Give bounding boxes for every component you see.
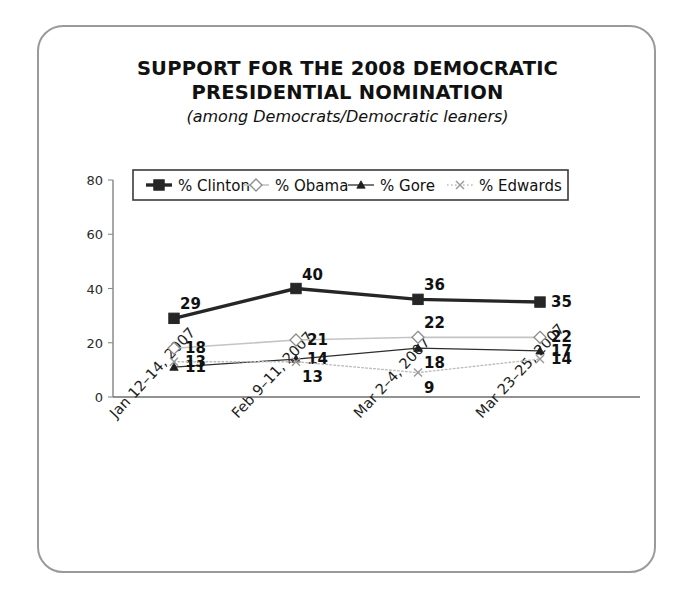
legend-label: % Clinton	[178, 177, 250, 195]
legend-label: % Gore	[380, 177, 435, 195]
data-point-label: 9	[424, 379, 434, 397]
data-point-label: 21	[307, 331, 328, 349]
data-point-label: 14	[551, 350, 572, 368]
data-point-marker	[169, 313, 179, 323]
data-point-label: 36	[424, 276, 445, 294]
data-point-marker	[154, 180, 164, 190]
data-point-label: 13	[302, 368, 323, 386]
data-point-label: 14	[307, 350, 328, 368]
data-point-marker	[291, 283, 301, 293]
data-point-label: 22	[424, 314, 445, 332]
y-axis-tick-label: 40	[86, 282, 103, 297]
legend-label: % Edwards	[479, 177, 562, 195]
data-point-marker	[535, 297, 545, 307]
series-line	[174, 289, 540, 319]
data-point-label: 40	[302, 266, 323, 284]
x-axis-tick-label: Mar 2–4, 2007	[350, 334, 432, 421]
chart-page: SUPPORT FOR THE 2008 DEMOCRATIC PRESIDEN…	[0, 0, 692, 606]
series-line	[174, 359, 540, 373]
series-obama	[168, 331, 546, 354]
y-axis-tick-label: 0	[95, 390, 103, 405]
legend-label: % Obama	[275, 177, 348, 195]
y-axis-tick-label: 60	[86, 227, 103, 242]
data-point-label: 35	[551, 293, 572, 311]
series-line	[174, 348, 540, 367]
line-chart: 020406080Jan 12–14, 2007Feb 9–11, 2007Ma…	[0, 0, 692, 606]
series-line	[174, 337, 540, 348]
y-axis-tick-label: 20	[86, 336, 103, 351]
data-point-label: 13	[185, 353, 206, 371]
series-edwards	[170, 355, 544, 377]
series-gore	[170, 344, 544, 370]
y-axis-tick-label: 80	[86, 173, 103, 188]
series-clinton	[169, 283, 545, 323]
data-point-marker	[413, 294, 423, 304]
data-point-label: 29	[180, 295, 201, 313]
